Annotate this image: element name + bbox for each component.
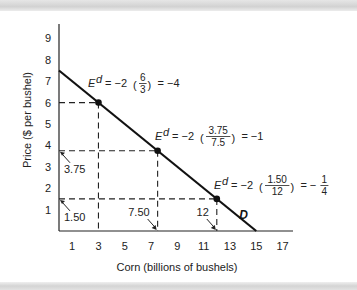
formula-left-paren: ( (259, 181, 263, 193)
formula-superscript: d (96, 73, 103, 85)
formula-right-paren: ) (231, 132, 235, 144)
y-tick-label: 3 (45, 161, 51, 173)
formula-coefficient: = −2 (172, 130, 194, 142)
formula-right-paren: ) (148, 79, 152, 91)
elasticity-formula: Ed= −2(3.757.5)= −1 (155, 125, 263, 148)
y-tick-label: 9 (45, 32, 51, 44)
formula-superscript: d (222, 175, 229, 187)
formula-coefficient: = −2 (231, 179, 253, 191)
callout-arrowhead (60, 152, 65, 156)
formula-ed-symbol: E (214, 179, 222, 191)
formula-ed-symbol: E (155, 130, 163, 142)
formula-coefficient: = −2 (105, 77, 127, 89)
x-tick-label: 15 (250, 240, 262, 252)
formula-superscript: d (163, 126, 170, 138)
y-tick-labels: 123456789 (45, 32, 51, 215)
formula-denominator: 7.5 (211, 137, 225, 148)
x-value-callout: 12 (197, 206, 209, 218)
data-point (214, 196, 221, 203)
y-tick-label: 2 (45, 182, 51, 194)
x-tick-labels: 1357911131517 (69, 240, 289, 252)
x-tick-label: 17 (276, 240, 288, 252)
y-value-callout: 3.75 (64, 163, 85, 175)
formula-numerator: 1.50 (267, 174, 287, 185)
y-tick-label: 4 (45, 139, 51, 151)
value-callouts: 3.757.501.5012 (60, 152, 216, 230)
y-tick-label: 6 (45, 97, 51, 109)
y-tick-label: 5 (45, 118, 51, 130)
y-tick-label: 8 (45, 54, 51, 66)
x-tick-label: 5 (122, 240, 128, 252)
formula-left-paren: ( (200, 132, 204, 144)
formula-numerator: 3.75 (208, 125, 228, 136)
x-tick-label: 3 (95, 240, 101, 252)
demand-elasticity-chart: 123456789 1357911131517 Corn (billions o… (0, 0, 357, 290)
y-value-callout: 1.50 (64, 211, 85, 223)
result-denominator: 4 (322, 186, 328, 197)
formula-numerator: 6 (140, 72, 146, 83)
formula-right-paren: ) (290, 181, 294, 193)
formula-denominator: 12 (272, 186, 284, 197)
formula-result: = −1 (241, 130, 263, 142)
x-value-callout: 7.50 (128, 206, 149, 218)
x-tick-label: 11 (198, 240, 209, 252)
formula-ed-symbol: E (88, 77, 96, 89)
y-tick-label: 1 (45, 204, 51, 216)
axes (59, 24, 293, 231)
formula-denominator: 3 (140, 84, 146, 95)
x-tick-label: 9 (174, 240, 180, 252)
y-axis-title: Price ($ per bushel) (21, 72, 33, 168)
formula-left-paren: ( (133, 79, 137, 91)
callout-arrowhead (60, 200, 65, 204)
x-axis-title: Corn (billions of bushels) (116, 261, 237, 273)
formula-result: = −4 (158, 77, 180, 89)
elasticity-formula: Ed= −2(1.5012)= −14 (214, 174, 328, 197)
x-tick-label: 7 (148, 240, 154, 252)
formula-result: = − (300, 179, 316, 191)
elasticity-formula: Ed= −2(63)= −4 (88, 72, 180, 95)
result-numerator: 1 (322, 174, 328, 185)
x-tick-label: 13 (224, 240, 236, 252)
data-point (154, 147, 161, 154)
demand-curve-label: D (239, 208, 248, 222)
data-point (95, 99, 102, 106)
x-tick-label: 1 (69, 240, 75, 252)
y-tick-label: 7 (45, 75, 51, 87)
elasticity-annotations: Ed= −2(63)= −4Ed= −2(3.757.5)= −1Ed= −2(… (88, 72, 328, 197)
